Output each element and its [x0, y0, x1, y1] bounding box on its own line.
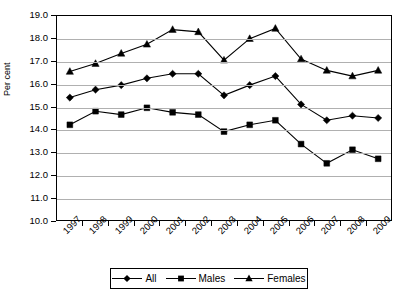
legend-marker: [166, 273, 196, 285]
data-point-marker: [298, 141, 304, 147]
series-line: [70, 28, 378, 76]
series-layer: [57, 16, 391, 220]
y-axis-tick-label: 19.0: [30, 10, 49, 20]
data-point-marker: [170, 109, 176, 115]
legend-item-males[interactable]: Males: [166, 273, 226, 285]
y-axis-tick-label: 13.0: [30, 147, 49, 157]
series-line: [70, 108, 378, 164]
data-point-marker: [143, 40, 150, 47]
gridline: [57, 85, 391, 86]
y-axis-ticks: 19.018.017.016.015.014.013.012.011.010.0: [0, 0, 56, 297]
gridline: [57, 176, 391, 177]
y-axis-tick-label: 18.0: [30, 33, 49, 43]
data-point-marker: [195, 112, 201, 118]
data-point-marker: [67, 122, 73, 128]
legend-item-label: Females: [267, 273, 305, 284]
data-point-marker: [323, 117, 330, 124]
data-point-marker: [350, 147, 356, 153]
data-point-marker: [273, 117, 279, 123]
square-icon: [166, 273, 196, 285]
diamond-icon: [112, 273, 142, 285]
chart-legend: AllMalesFemales: [110, 268, 308, 289]
gridline: [57, 62, 391, 63]
data-point-marker: [247, 122, 253, 128]
x-axis-ticks: 1997199819992000200120022003200420052006…: [56, 221, 392, 229]
x-axis-tick-mark: [159, 221, 160, 226]
plot-area: [56, 15, 392, 221]
legend-marker: [234, 273, 264, 285]
y-axis-tick-label: 11.0: [30, 193, 48, 203]
data-point-marker: [92, 86, 99, 93]
gridline: [57, 39, 391, 40]
x-axis-tick-mark: [340, 221, 341, 226]
legend-item-females[interactable]: Females: [234, 273, 305, 285]
data-point-marker: [169, 70, 176, 77]
data-point-marker: [324, 160, 330, 166]
series-all: [66, 70, 381, 124]
gridline: [57, 153, 391, 154]
legend-marker-shape: [178, 275, 184, 281]
data-point-marker: [349, 112, 356, 119]
data-point-marker: [66, 94, 73, 101]
data-point-marker: [375, 156, 381, 162]
y-axis-tick-label: 14.0: [30, 124, 49, 134]
y-axis-tick-label: 16.0: [30, 79, 49, 89]
y-axis-tick-label: 17.0: [30, 56, 49, 66]
legend-marker-shape: [246, 274, 253, 281]
gridline: [57, 199, 391, 200]
legend-marker-shape: [124, 274, 131, 281]
data-point-marker: [375, 67, 382, 74]
data-point-marker: [93, 108, 99, 114]
y-axis-tick-label: 15.0: [30, 102, 49, 112]
triangle-icon: [234, 273, 264, 285]
legend-marker: [112, 273, 142, 285]
gridline: [57, 108, 391, 109]
data-point-marker: [272, 25, 279, 32]
legend-item-all[interactable]: All: [112, 273, 156, 285]
y-axis-tick-label: 10.0: [30, 216, 49, 226]
data-point-marker: [143, 75, 150, 82]
line-chart: Per cent 19.018.017.016.015.014.013.012.…: [0, 0, 398, 297]
series-females: [66, 25, 382, 79]
legend-item-label: Males: [199, 273, 226, 284]
gridline: [57, 130, 391, 131]
data-point-marker: [169, 26, 176, 33]
data-point-marker: [118, 112, 124, 118]
y-axis-tick-label: 12.0: [30, 170, 49, 180]
legend-item-label: All: [145, 273, 156, 284]
data-point-marker: [375, 114, 382, 121]
series-males: [67, 105, 381, 166]
